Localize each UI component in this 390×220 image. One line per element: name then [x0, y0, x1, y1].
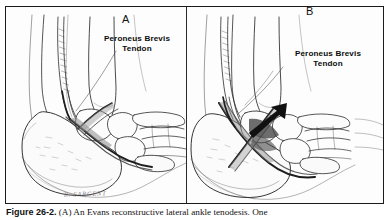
- figure-frame: A B Peroneus Brevis Tendon Peroneus Brev…: [5, 6, 384, 204]
- panel-divider: [186, 7, 187, 203]
- figure-caption-text: (A) An Evans reconstructive lateral ankl…: [57, 207, 268, 217]
- panel-b: [187, 7, 384, 203]
- panel-b-letter: B: [306, 6, 314, 17]
- figure-caption-label: Figure 26-2.: [6, 207, 57, 217]
- artist-signature: R. SARGENT: [64, 189, 107, 197]
- figure-caption: Figure 26-2. (A) An Evans reconstructive…: [6, 206, 386, 218]
- panel-a-letter: A: [122, 13, 130, 25]
- panel-b-illustration: [187, 7, 384, 203]
- figure-root: A B Peroneus Brevis Tendon Peroneus Brev…: [0, 0, 390, 220]
- panel-a-tendon-label: Peroneus Brevis Tendon: [94, 34, 180, 54]
- panel-b-tendon-label: Peroneus Brevis Tendon: [278, 49, 378, 69]
